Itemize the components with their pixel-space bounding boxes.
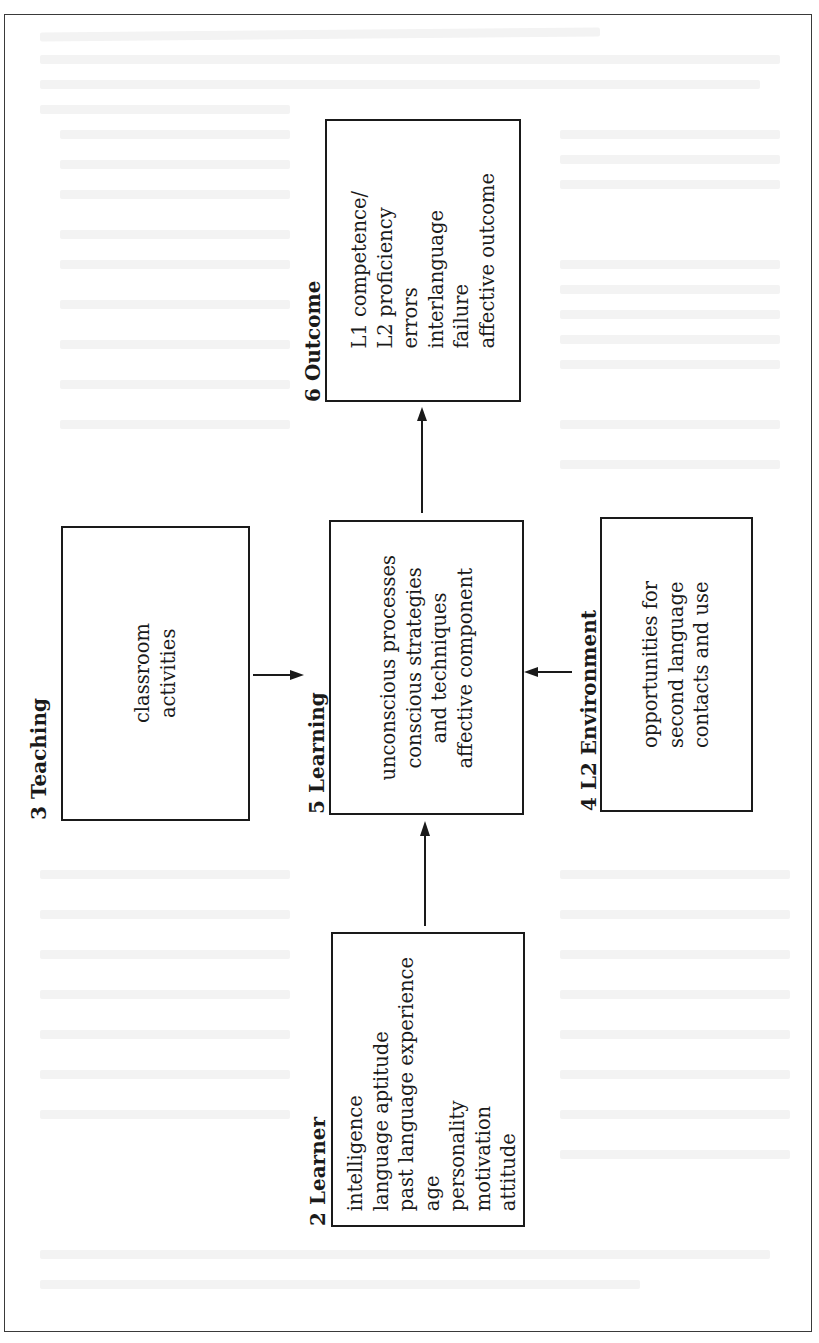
teaching-items: classroom activities [130,623,181,723]
teaching-item: activities [156,623,182,723]
learning-box: unconscious processes conscious strategi… [329,520,524,815]
environment-item: contacts and use [689,581,715,748]
teaching-box: classroom activities [61,526,250,821]
teaching-item: classroom [130,623,156,723]
learning-item: affective component [452,555,478,781]
outcome-box: L1 competence/ L2 proficiency errors int… [325,119,521,402]
teaching-label: 3 Teaching [28,526,50,820]
learner-item: intelligence [343,957,369,1211]
learner-label: 2 Learner [307,932,329,1226]
environment-item: second language [664,581,690,748]
learner-box: intelligence language aptitude past lang… [331,932,525,1227]
outcome-item: affective outcome [474,173,500,349]
learning-item: and techniques [427,555,453,781]
learner-item: attitude [496,957,522,1211]
outcome-item: interlanguage [423,173,449,349]
environment-item: opportunities for [638,581,664,748]
outcome-items: L1 competence/ L2 proficiency errors int… [347,173,500,349]
learner-item: past language experience [394,957,420,1211]
learning-item: conscious strategies [401,555,427,781]
learning-item: unconscious processes [376,555,402,781]
arrow-teaching-to-learning [250,665,310,685]
environment-label: 4 L2 Environment [578,517,600,811]
learner-item: motivation [471,957,497,1211]
outcome-item: failure [449,173,475,349]
outcome-item: L1 competence/ [347,173,373,349]
learner-item: personality [445,957,471,1211]
learning-items: unconscious processes conscious strategi… [376,555,478,781]
arrow-environment-to-learning [522,662,574,682]
learner-items: intelligence language aptitude past lang… [343,957,522,1211]
outcome-label: 6 Outcome [302,120,324,402]
learner-item: age [420,957,446,1211]
learner-item: language aptitude [369,957,395,1211]
environment-items: opportunities for second language contac… [638,581,715,748]
outcome-item: L2 proficiency [372,173,398,349]
environment-box: opportunities for second language contac… [600,517,753,812]
arrow-learner-to-learning [415,818,435,930]
outcome-item: errors [398,173,424,349]
arrow-learning-to-outcome [412,405,432,517]
